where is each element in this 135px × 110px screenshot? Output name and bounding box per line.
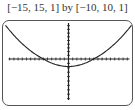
graph-plot — [0, 0, 135, 110]
